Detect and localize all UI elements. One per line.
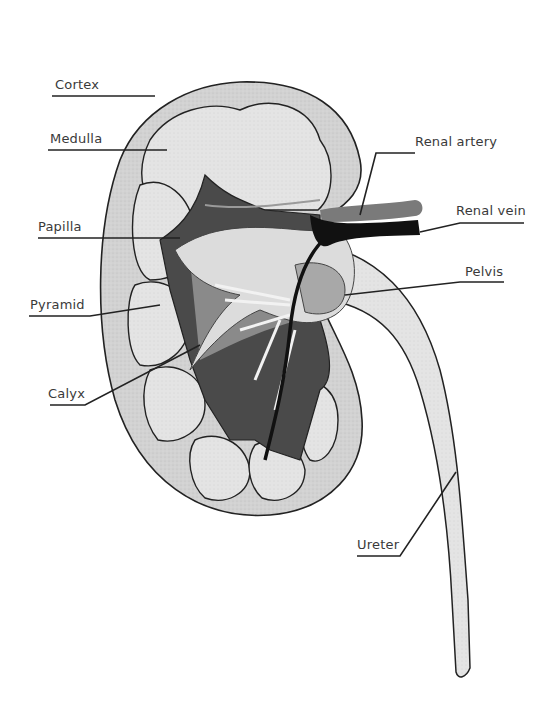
label-renal-vein: Renal vein xyxy=(456,203,526,218)
label-calyx: Calyx xyxy=(48,386,85,401)
label-medulla: Medulla xyxy=(50,131,102,146)
label-papilla: Papilla xyxy=(38,219,82,234)
label-pyramid: Pyramid xyxy=(30,297,85,312)
label-pelvis: Pelvis xyxy=(465,264,503,279)
label-renal-artery: Renal artery xyxy=(415,134,497,149)
label-ureter: Ureter xyxy=(357,537,399,552)
kidney-diagram xyxy=(0,0,551,705)
label-cortex: Cortex xyxy=(55,77,99,92)
